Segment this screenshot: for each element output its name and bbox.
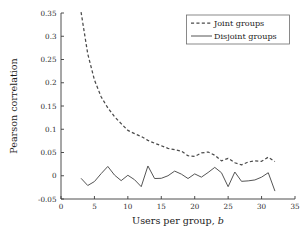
y-tick-label: 0.3 xyxy=(45,32,57,41)
y-tick-label: 0.2 xyxy=(45,78,56,87)
x-axis-title: Users per group, b xyxy=(132,215,224,226)
y-tick-label: 0.05 xyxy=(40,148,56,157)
chart-legend: Joint groupsDisjoint groups xyxy=(187,15,290,44)
x-tick-label: 30 xyxy=(257,202,267,211)
y-tick-label: 0.25 xyxy=(40,55,56,64)
x-tick-label: 20 xyxy=(190,202,200,211)
x-tick-label: 15 xyxy=(157,202,167,211)
x-tick-label: 35 xyxy=(290,202,300,211)
chart-figure: -0.0500.050.10.150.20.250.30.35 05101520… xyxy=(0,0,304,241)
x-axis-title-variable: b xyxy=(218,215,224,226)
legend-label: Joint groups xyxy=(213,18,264,28)
pearson-correlation-line-chart: -0.0500.050.10.150.20.250.30.35 05101520… xyxy=(0,0,304,241)
x-tick-label: 25 xyxy=(224,202,234,211)
y-axis-title: Pearson correlation xyxy=(8,58,19,154)
x-tick-label: 0 xyxy=(59,202,64,211)
y-tick-label: 0.15 xyxy=(40,102,56,111)
x-tick-label: 10 xyxy=(123,202,133,211)
x-tick-label: 5 xyxy=(92,202,97,211)
x-axis-title-text: Users per group, xyxy=(132,215,218,226)
y-tick-label: 0 xyxy=(52,171,57,180)
y-tick-label: -0.05 xyxy=(38,195,57,204)
legend-label: Disjoint groups xyxy=(214,31,277,41)
y-tick-label: 0.1 xyxy=(45,125,56,134)
y-tick-label: 0.35 xyxy=(40,9,56,18)
